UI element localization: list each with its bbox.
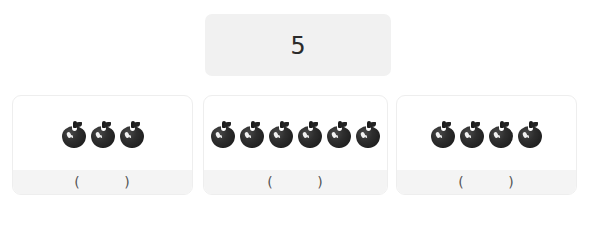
apple-icon: [120, 120, 144, 148]
fruit-group-card-3[interactable]: ( ): [396, 95, 577, 195]
apple-icon: [211, 120, 235, 148]
apple-icon: [431, 120, 455, 148]
apple-leaf: [224, 122, 231, 127]
apple-icon: [240, 120, 264, 148]
apple-icon: [269, 120, 293, 148]
apple-leaf: [531, 122, 538, 127]
answer-blank-2[interactable]: ( ): [267, 175, 324, 189]
fruit-row-1: [13, 96, 192, 172]
apple-icon: [356, 120, 380, 148]
apple-icon: [518, 120, 542, 148]
fruit-group-card-1[interactable]: ( ): [12, 95, 193, 195]
apple-icon: [91, 120, 115, 148]
apple-leaf: [340, 122, 347, 127]
fruit-row-2: [204, 96, 387, 172]
fruit-group-card-2[interactable]: ( ): [203, 95, 388, 195]
apple-leaf: [473, 122, 480, 127]
answer-blank-3[interactable]: ( ): [458, 175, 515, 189]
number-card: 5: [205, 14, 391, 76]
apple-icon: [298, 120, 322, 148]
apple-icon: [489, 120, 513, 148]
apple-leaf: [104, 122, 111, 127]
apple-icon: [62, 120, 86, 148]
answer-strip-2[interactable]: ( ): [204, 170, 387, 194]
apple-leaf: [502, 122, 509, 127]
apple-leaf: [282, 122, 289, 127]
apple-icon: [327, 120, 351, 148]
apple-leaf: [253, 122, 260, 127]
fruit-row-3: [397, 96, 576, 172]
answer-strip-3[interactable]: ( ): [397, 170, 576, 194]
apple-icon: [460, 120, 484, 148]
worksheet-canvas: 5 ( ) ( ) ( ): [0, 0, 596, 225]
answer-blank-1[interactable]: ( ): [74, 175, 131, 189]
apple-leaf: [75, 122, 82, 127]
apple-leaf: [133, 122, 140, 127]
apple-leaf: [369, 122, 376, 127]
answer-strip-1[interactable]: ( ): [13, 170, 192, 194]
number-card-value: 5: [290, 33, 305, 58]
apple-leaf: [311, 122, 318, 127]
apple-leaf: [444, 122, 451, 127]
